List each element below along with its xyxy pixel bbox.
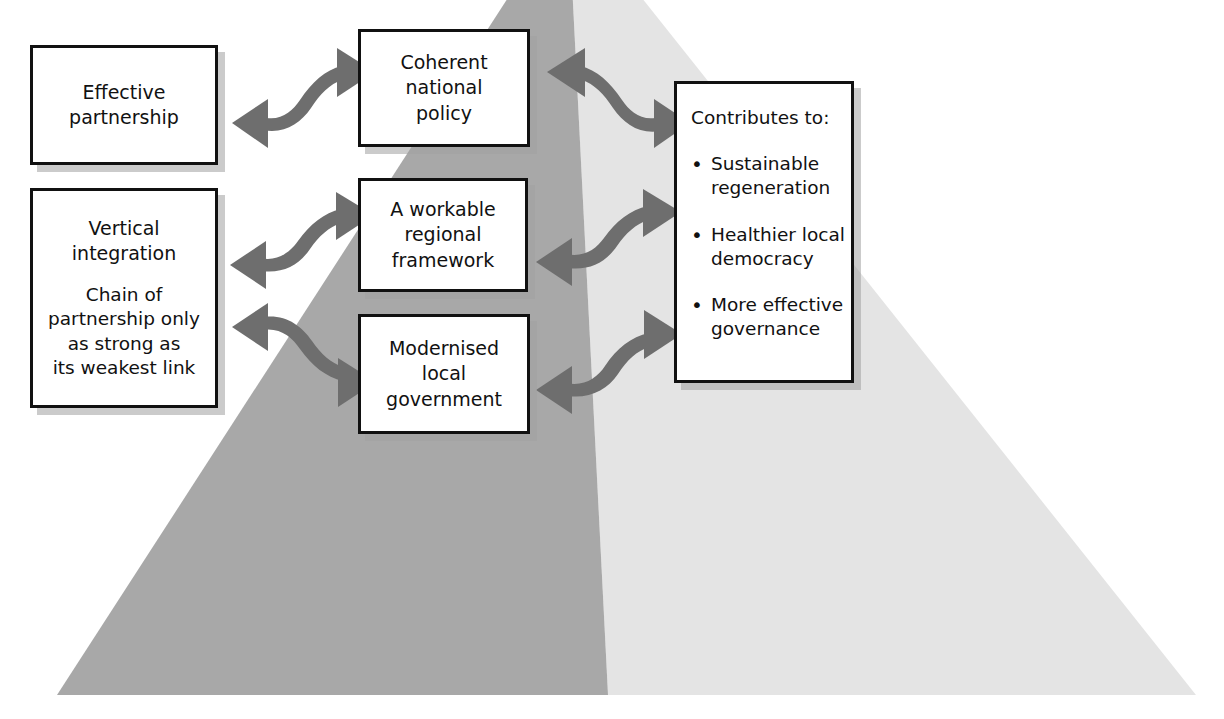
arrow-vertical-integration-modernised-local-government: [232, 303, 376, 407]
box-coherent-national-policy-line-2: national: [405, 75, 482, 100]
box-vertical-integration-body-line-4: its weakest link: [53, 356, 196, 380]
arrow-effective-partnership-coherent-national-policy: [232, 48, 375, 148]
box-workable-regional-framework-line-1: A workable: [390, 197, 495, 222]
box-effective-partnership-line-2: partnership: [69, 105, 179, 130]
box-coherent-national-policy-line-3: policy: [416, 101, 472, 126]
list-item: More effective governance: [691, 293, 841, 341]
box-vertical-integration-heading-line-1: Vertical: [88, 216, 159, 241]
contributes-to-item-1-line-2: regeneration: [711, 176, 841, 200]
box-effective-partnership: Effective partnership: [30, 45, 218, 165]
arrow-modernised-local-government-contributes-to: [536, 310, 682, 414]
arrow-workable-regional-framework-contributes-to: [536, 189, 681, 286]
box-vertical-integration-body-line-1: Chain of: [86, 283, 163, 307]
box-modernised-local-government-line-1: Modernised: [389, 336, 499, 361]
contributes-to-list: Sustainable regeneration Healthier local…: [691, 152, 841, 340]
box-vertical-integration: Vertical integration Chain of partnershi…: [30, 188, 218, 408]
contributes-to-item-3-line-1: More effective: [711, 293, 841, 317]
contributes-to-heading: Contributes to:: [691, 106, 829, 130]
list-item: Healthier local democracy: [691, 223, 841, 271]
arrow-coherent-national-policy-contributes-to: [547, 48, 690, 148]
box-modernised-local-government: Modernised local government: [358, 314, 530, 434]
contributes-to-item-2-line-1: Healthier local: [711, 223, 841, 247]
box-workable-regional-framework: A workable regional framework: [358, 178, 528, 292]
box-vertical-integration-heading-line-2: integration: [72, 241, 176, 266]
contributes-to-item-2-line-2: democracy: [711, 247, 841, 271]
contributes-to-item-3-line-2: governance: [711, 317, 841, 341]
box-modernised-local-government-line-3: government: [386, 387, 502, 412]
box-workable-regional-framework-line-2: regional: [404, 222, 481, 247]
diagram-canvas: Effective partnership Vertical integrati…: [0, 0, 1224, 719]
box-vertical-integration-body-line-2: partnership only: [48, 307, 200, 331]
box-workable-regional-framework-line-3: framework: [392, 248, 494, 273]
box-modernised-local-government-line-2: local: [422, 361, 466, 386]
arrow-vertical-integration-workable-regional-framework: [230, 192, 374, 289]
list-item: Sustainable regeneration: [691, 152, 841, 200]
box-effective-partnership-line-1: Effective: [83, 80, 166, 105]
contributes-to-item-1-line-1: Sustainable: [711, 152, 841, 176]
box-vertical-integration-body-line-3: as strong as: [68, 332, 181, 356]
box-coherent-national-policy: Coherent national policy: [358, 29, 530, 147]
box-contributes-to: Contributes to: Sustainable regeneration…: [674, 81, 854, 383]
box-coherent-national-policy-line-1: Coherent: [400, 50, 487, 75]
